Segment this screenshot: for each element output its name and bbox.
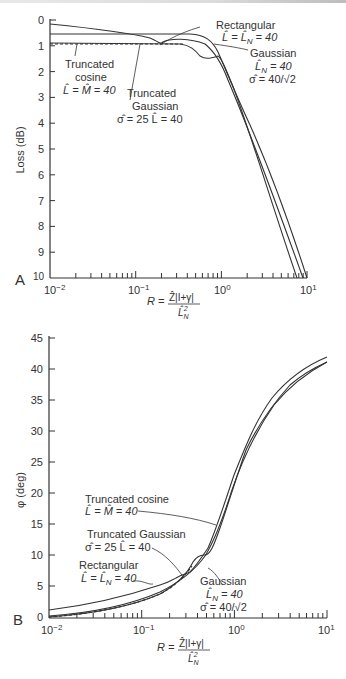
- annotation-a-rectangular: Rectangular L̂ = L̂N = 40: [216, 19, 278, 46]
- svg-text:L̂ = L̂N = 40: L̂ = L̂N = 40: [81, 571, 137, 587]
- ytick-a: 2: [38, 66, 44, 78]
- ytick-a: 6: [38, 169, 44, 181]
- panel-a-text: 0 1 2 3 4 5 6 7 8 9 10 A Loss (dB) 10−2 …: [14, 14, 317, 320]
- panel-letter-b: B: [13, 611, 23, 628]
- svg-text:L̂ = M̂ = 40: L̂ = M̂ = 40: [63, 83, 116, 96]
- svg-text:Ẑ|I+γ|: Ẑ|I+γ|: [179, 637, 204, 649]
- leader-a-gauss: [214, 44, 248, 50]
- svg-text:σ̂ = 25 L̂ = 40: σ̂ = 25 L̂ = 40: [85, 540, 151, 553]
- ylabel-a: Loss (dB): [14, 126, 26, 173]
- ytick-b: 35: [31, 394, 43, 406]
- svg-text:Truncated cosine: Truncated cosine: [85, 493, 169, 505]
- figure: 0 1 2 3 4 5 6 7 8 9 10 A Loss (dB) 10−2 …: [0, 0, 346, 679]
- leader-a-tcos: [75, 44, 77, 56]
- svg-text:σ̂ = 40/√2: σ̂ = 40/√2: [249, 73, 296, 85]
- svg-text:Rectangular: Rectangular: [216, 19, 276, 31]
- leader-b-tg: [152, 548, 184, 578]
- xtick-b-1e0: 100: [228, 623, 245, 636]
- ytick-b: 40: [31, 363, 43, 375]
- svg-text:Truncated: Truncated: [127, 87, 176, 99]
- y-ticks-a: [50, 46, 55, 252]
- xtick-a-1e1: 101: [300, 283, 317, 296]
- ytick-b: 10: [31, 549, 43, 561]
- xtick-b-1e-2: 10−2: [41, 623, 63, 636]
- svg-text:Gaussian: Gaussian: [200, 575, 246, 587]
- xtick-b-1e1: 101: [318, 623, 335, 636]
- svg-text:L̂N2: L̂N2: [178, 305, 190, 320]
- annotation-b-rectangular: Rectangular L̂ = L̂N = 40: [79, 559, 139, 587]
- annotation-a-gaussian: Gaussian L̂N = 40 σ̂ = 40/√2: [249, 47, 296, 85]
- annotation-b-truncated-gaussian: Truncated Gaussian σ̂ = 25 L̂ = 40: [85, 528, 186, 553]
- ytick-b: 15: [31, 518, 43, 530]
- svg-text:L̂ = M̂ = 40: L̂ = M̂ = 40: [85, 504, 138, 517]
- ytick-a: 4: [38, 117, 44, 129]
- ytick-a: 7: [38, 195, 44, 207]
- ytick-a: 8: [38, 220, 44, 232]
- svg-text:Truncated Gaussian: Truncated Gaussian: [87, 528, 186, 540]
- ylabel-b: φ (deg): [14, 472, 26, 508]
- ytick-a: 5: [38, 143, 44, 155]
- y-ticks-b: [49, 338, 55, 586]
- ytick-b: 0: [37, 611, 43, 623]
- ytick-a: 10: [33, 271, 45, 282]
- svg-text:σ̂ = 25 L̂ = 40: σ̂ = 25 L̂ = 40: [117, 112, 183, 125]
- svg-text:Rectangular: Rectangular: [79, 559, 139, 571]
- x-ticks-a: [76, 271, 307, 278]
- ytick-b: 45: [31, 332, 43, 344]
- xtick-a-1e0: 100: [214, 283, 231, 296]
- ytick-a: 3: [38, 91, 44, 103]
- xlabel-a: R = Ẑ|I+γ| L̂N2: [147, 291, 200, 320]
- ytick-a: 9: [38, 246, 44, 258]
- leader-b-tcos: [138, 511, 216, 525]
- xlabel-b: R = Ẑ|I+γ| L̂N2: [157, 637, 210, 666]
- svg-text:L̂N2: L̂N2: [188, 651, 200, 666]
- annotation-a-truncated-gaussian: Truncated Gaussian σ̂ = 25 L̂ = 40: [117, 87, 183, 125]
- ytick-a: 1: [38, 40, 44, 52]
- ytick-b: 20: [31, 487, 43, 499]
- svg-text:cosine: cosine: [75, 71, 107, 83]
- svg-text:σ̂ = 40/√2: σ̂ = 40/√2: [200, 601, 247, 613]
- svg-text:R =: R =: [147, 295, 165, 307]
- ytick-a: 0: [38, 14, 44, 26]
- xtick-b-1e-1: 10−1: [133, 623, 155, 636]
- leader-a-rect: [160, 27, 200, 45]
- svg-text:Gaussian: Gaussian: [132, 100, 178, 112]
- xtick-a-1e-2: 10−2: [44, 283, 66, 296]
- annotation-b-truncated-cosine: Truncated cosine L̂ = M̂ = 40: [85, 493, 169, 517]
- ytick-b: 5: [37, 580, 43, 592]
- svg-text:Gaussian: Gaussian: [250, 47, 296, 59]
- svg-text:L̂ = L̂N = 40: L̂ = L̂N = 40: [222, 30, 278, 46]
- panel-letter-a: A: [15, 271, 25, 288]
- ytick-b: 25: [31, 456, 43, 468]
- ytick-b: 30: [31, 425, 43, 437]
- svg-text:Ẑ|I+γ|: Ẑ|I+γ|: [169, 291, 194, 303]
- annotation-b-gaussian: Gaussian L̂N = 40 σ̂ = 40/√2: [200, 575, 247, 613]
- svg-text:R =: R =: [157, 641, 175, 653]
- svg-text:Truncated: Truncated: [65, 58, 114, 70]
- annotation-a-truncated-cosine: Truncated cosine L̂ = M̂ = 40: [63, 58, 116, 96]
